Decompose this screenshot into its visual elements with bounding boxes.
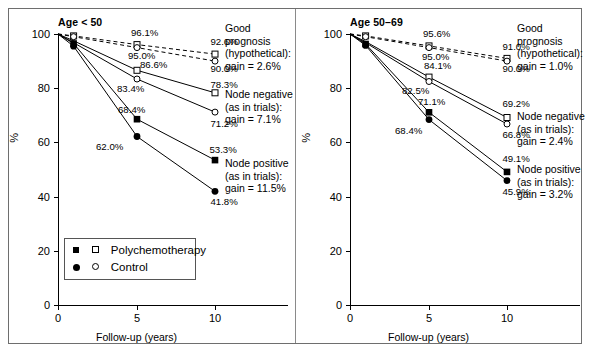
x-tick-5 — [137, 306, 138, 310]
x-axis-title: Follow-up (years) — [388, 331, 469, 343]
annotation-line: (as in trials): — [517, 176, 581, 189]
x-axis — [350, 305, 580, 306]
filled-circle-icon — [73, 264, 80, 271]
y-tick-100 — [54, 34, 58, 35]
value-label-np-poly-10: 53.3% — [209, 144, 236, 155]
annotation-line: Good — [517, 22, 583, 35]
value-label-gp-poly-5: 95.6% — [423, 28, 450, 39]
y-tick-label-80: 80 — [314, 82, 342, 94]
x-tick-label-5: 5 — [417, 312, 441, 324]
y-axis — [350, 34, 351, 305]
y-tick-label-40: 40 — [22, 191, 50, 203]
legend: Polychemotherapy Control — [64, 238, 196, 280]
y-tick-label-80: 80 — [22, 82, 50, 94]
value-label-np-poly-5: 71.1% — [418, 96, 445, 107]
x-tick-label-10: 10 — [495, 312, 519, 324]
y-tick-label-20: 20 — [314, 245, 342, 257]
value-label-np-ctrl-10: 41.8% — [210, 196, 237, 207]
panel-age-under-50: Age < 50 — [0, 0, 296, 354]
value-label-nn-poly-5: 86.6% — [140, 59, 167, 70]
annotation-line: gain = 1.0% — [517, 60, 583, 73]
y-tick-label-60: 60 — [314, 136, 342, 148]
legend-label: Polychemotherapy — [111, 244, 206, 256]
value-label-np-poly-5: 68.4% — [118, 104, 145, 115]
x-tick-label-5: 5 — [125, 312, 149, 324]
annotation-line: Good — [225, 22, 291, 35]
y-tick-label-0: 0 — [314, 299, 342, 311]
value-label-nn-ctrl-5: 83.4% — [117, 83, 144, 94]
annotation-good-prognosis: Good prognosis (hypothetical): gain = 2.… — [225, 22, 291, 72]
y-tick-label-100: 100 — [314, 28, 342, 40]
x-tick-10 — [507, 306, 508, 310]
y-tick-label-20: 20 — [22, 245, 50, 257]
open-square-icon — [92, 246, 99, 253]
annotation-line: Node negative — [225, 88, 293, 101]
value-label-gp-poly-5: 96.1% — [131, 27, 158, 38]
legend-row-control: Control — [73, 261, 148, 273]
value-label-nn-ctrl-5: 82.5% — [402, 85, 429, 96]
x-tick-label-0: 0 — [46, 312, 70, 324]
annotation-line: Node negative — [517, 110, 585, 123]
annotation-node-positive: Node positive (as in trials): gain = 3.2… — [517, 163, 581, 201]
legend-label: Control — [111, 261, 148, 273]
annotation-line: (hypothetical): — [517, 47, 583, 60]
legend-row-polychemotherapy: Polychemotherapy — [73, 244, 206, 256]
x-tick-label-10: 10 — [203, 312, 227, 324]
annotation-line: gain = 2.4% — [517, 135, 585, 148]
figure-root: Age < 50 — [0, 0, 592, 354]
x-tick-5 — [429, 306, 430, 310]
annotation-node-positive: Node positive (as in trials): gain = 11.… — [225, 157, 289, 195]
x-tick-label-0: 0 — [338, 312, 362, 324]
annotation-line: (as in trials): — [225, 101, 293, 114]
y-tick-20 — [54, 251, 58, 252]
annotation-line: Node positive — [517, 163, 581, 176]
annotation-line: gain = 11.5% — [225, 182, 289, 195]
x-axis — [58, 305, 288, 306]
y-tick-label-100: 100 — [22, 28, 50, 40]
y-tick-label-40: 40 — [314, 191, 342, 203]
x-tick-0 — [350, 306, 351, 310]
y-axis-title: % — [8, 133, 20, 143]
value-label-np-ctrl-5: 68.4% — [395, 125, 422, 136]
y-tick-20 — [346, 251, 350, 252]
annotation-line: prognosis — [225, 35, 291, 48]
y-tick-80 — [54, 88, 58, 89]
y-tick-60 — [346, 142, 350, 143]
annotation-line: gain = 2.6% — [225, 60, 291, 73]
y-tick-60 — [54, 142, 58, 143]
x-axis-title: Follow-up (years) — [96, 331, 177, 343]
annotation-line: Node positive — [225, 157, 289, 170]
annotation-line: gain = 7.1% — [225, 113, 293, 126]
annotation-line: (as in trials): — [517, 123, 585, 136]
annotation-line: prognosis — [517, 35, 583, 48]
x-tick-0 — [58, 306, 59, 310]
open-circle-icon — [92, 263, 99, 270]
y-tick-40 — [346, 197, 350, 198]
annotation-line: gain = 3.2% — [517, 188, 581, 201]
value-label-nn-poly-10: 69.2% — [502, 98, 529, 109]
y-tick-label-60: 60 — [22, 136, 50, 148]
value-label-np-ctrl-5: 62.0% — [96, 141, 123, 152]
annotation-good-prognosis: Good prognosis (hypothetical): gain = 1.… — [517, 22, 583, 72]
y-tick-40 — [54, 197, 58, 198]
annotation-node-negative: Node negative (as in trials): gain = 2.4… — [517, 110, 585, 148]
annotation-node-negative: Node negative (as in trials): gain = 7.1… — [225, 88, 293, 126]
y-tick-label-0: 0 — [22, 299, 50, 311]
y-tick-100 — [346, 34, 350, 35]
annotation-line: (hypothetical): — [225, 47, 291, 60]
y-axis-title: % — [300, 133, 312, 143]
x-tick-10 — [215, 306, 216, 310]
filled-square-icon — [73, 247, 79, 253]
value-label-nn-poly-5: 84.1% — [424, 60, 451, 71]
y-tick-80 — [346, 88, 350, 89]
annotation-line: (as in trials): — [225, 170, 289, 183]
panel-age-50-69: Age 50–69 — [296, 0, 592, 354]
y-axis — [58, 34, 59, 305]
